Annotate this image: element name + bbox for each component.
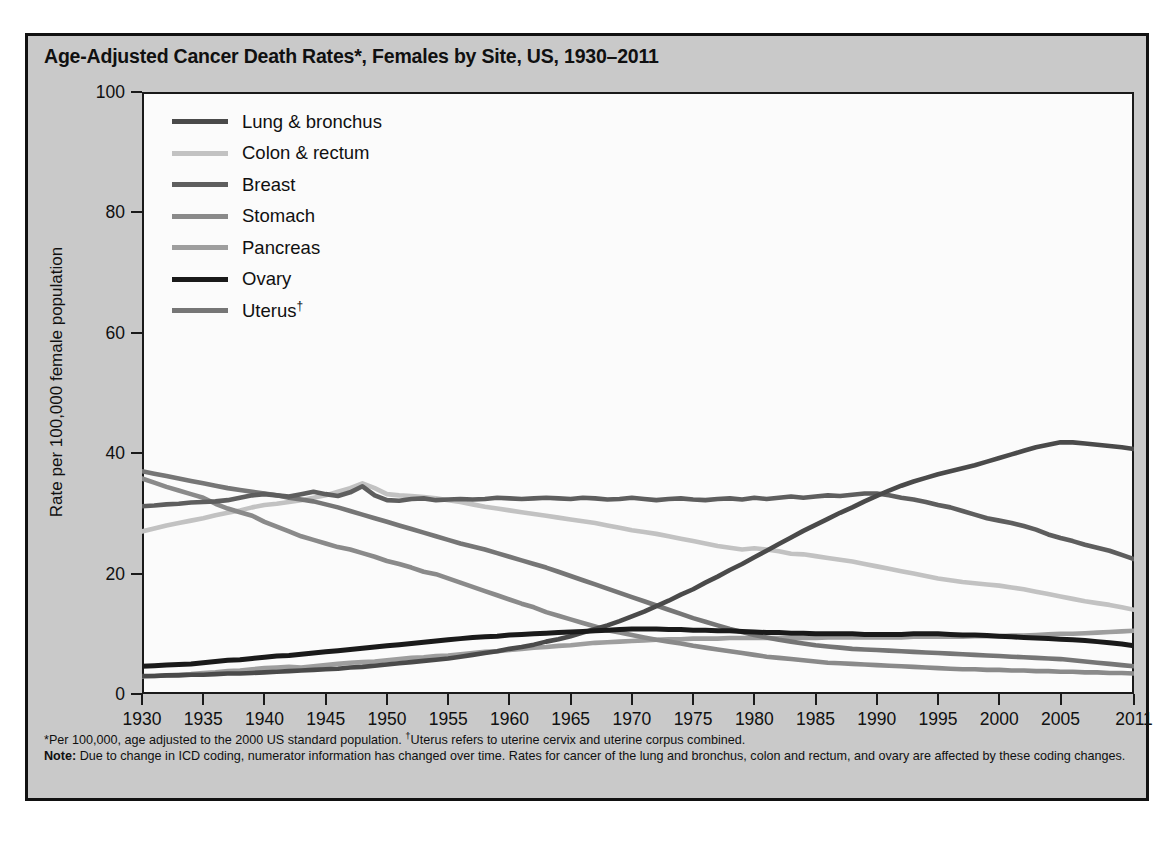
legend-swatch-icon: [172, 245, 228, 250]
x-tick-label: 1985: [796, 709, 835, 730]
legend-label: Breast: [242, 174, 295, 196]
x-tick-label: 1980: [735, 709, 774, 730]
x-tick-label: 1945: [306, 709, 345, 730]
footnote-source-part2: Uterus refers to uterine cervix and uter…: [411, 733, 746, 747]
legend-label: Uterus†: [242, 299, 303, 322]
x-tick-label: 1965: [551, 709, 590, 730]
footnote-note-label: Note:: [44, 749, 76, 763]
chart-figure: Age-Adjusted Cancer Death Rates*, Female…: [25, 33, 1149, 801]
x-tick-mark: [815, 694, 817, 705]
y-tick-mark: [131, 573, 142, 575]
x-tick-label: 1975: [674, 709, 713, 730]
footnotes: *Per 100,000, age adjusted to the 2000 U…: [44, 728, 1128, 764]
legend-swatch-icon: [172, 214, 228, 219]
x-tick-mark: [325, 694, 327, 705]
plot-area-wrapper: 020406080100 193019351940194519501955196…: [142, 92, 1134, 694]
x-tick-label: 2000: [980, 709, 1019, 730]
x-tick-mark: [202, 694, 204, 705]
series-line: [142, 486, 1134, 559]
y-tick-label: 0: [115, 684, 125, 705]
legend-swatch-icon: [172, 277, 228, 282]
x-tick-mark: [692, 694, 694, 705]
legend-item[interactable]: Uterus†: [172, 295, 502, 327]
y-tick-label: 20: [106, 563, 125, 584]
y-tick-mark: [131, 91, 142, 93]
legend-item[interactable]: Pancreas: [172, 232, 502, 264]
footnote-source-part1: *Per 100,000, age adjusted to the 2000 U…: [44, 733, 405, 747]
footnote-source: *Per 100,000, age adjusted to the 2000 U…: [44, 728, 1128, 749]
x-tick-mark: [386, 694, 388, 705]
x-tick-mark: [263, 694, 265, 705]
legend-swatch-icon: [172, 151, 228, 156]
legend-item[interactable]: Lung & bronchus: [172, 106, 502, 138]
x-tick-mark: [753, 694, 755, 705]
legend-swatch-icon: [172, 308, 228, 313]
y-tick-label: 40: [106, 443, 125, 464]
x-tick-mark: [508, 694, 510, 705]
x-tick-label: 1995: [919, 709, 958, 730]
y-tick-label: 80: [106, 202, 125, 223]
x-tick-label: 1990: [857, 709, 896, 730]
x-tick-mark: [1060, 694, 1062, 705]
footnote-note: Note: Due to change in ICD coding, numer…: [44, 749, 1128, 765]
series-line: [142, 483, 1134, 609]
x-tick-label: 1960: [490, 709, 529, 730]
legend-swatch-icon: [172, 119, 228, 124]
legend-label: Colon & rectum: [242, 142, 370, 164]
legend-label: Pancreas: [242, 237, 320, 259]
series-line: [142, 478, 1134, 673]
legend-item[interactable]: Stomach: [172, 201, 502, 233]
legend-item[interactable]: Colon & rectum: [172, 138, 502, 170]
legend-item[interactable]: Ovary: [172, 264, 502, 296]
x-tick-mark: [998, 694, 1000, 705]
y-tick-mark: [131, 452, 142, 454]
x-tick-mark: [876, 694, 878, 705]
legend-item[interactable]: Breast: [172, 169, 502, 201]
legend-swatch-icon: [172, 182, 228, 187]
x-tick-mark: [141, 694, 143, 705]
x-tick-mark: [631, 694, 633, 705]
x-tick-label: 1930: [123, 709, 162, 730]
y-tick-mark: [131, 211, 142, 213]
x-tick-label: 1955: [429, 709, 468, 730]
y-tick-mark: [131, 332, 142, 334]
y-tick-label: 100: [96, 82, 125, 103]
x-tick-label: 1970: [612, 709, 651, 730]
x-tick-label: 1940: [245, 709, 284, 730]
x-tick-mark: [937, 694, 939, 705]
x-tick-mark: [570, 694, 572, 705]
dagger-symbol: †: [297, 299, 304, 313]
chart-legend: Lung & bronchusColon & rectumBreastStoma…: [172, 106, 502, 327]
x-tick-label: 2005: [1041, 709, 1080, 730]
x-tick-mark: [447, 694, 449, 705]
chart-title: Age-Adjusted Cancer Death Rates*, Female…: [44, 45, 659, 68]
y-axis-label: Rate per 100,000 female population: [47, 102, 67, 662]
footnote-note-text: Due to change in ICD coding, numerator i…: [76, 749, 1125, 763]
y-tick-label: 60: [106, 322, 125, 343]
x-tick-mark: [1133, 694, 1135, 705]
x-tick-label: 1935: [184, 709, 223, 730]
x-tick-label: 2011: [1115, 709, 1153, 730]
x-tick-label: 1950: [367, 709, 406, 730]
legend-label: Stomach: [242, 205, 315, 227]
legend-label: Lung & bronchus: [242, 111, 382, 133]
legend-label: Ovary: [242, 268, 291, 290]
